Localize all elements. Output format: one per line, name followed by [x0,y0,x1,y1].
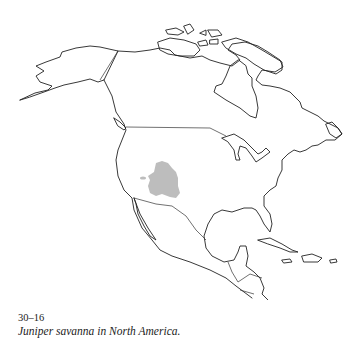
hispaniola-outline [302,254,322,262]
arctic-island-2 [166,28,184,35]
cuba-outline [258,238,298,252]
alaska-canada-border [100,51,118,80]
figure-title: Juniper savanna in North America. [18,324,180,338]
jamaica-outline [282,259,292,263]
figure-number: 30–16 [18,311,180,324]
north-america-map [0,0,360,300]
great-lakes-outline [222,134,270,162]
juniper-savanna-outlier [140,176,146,179]
arctic-island-7 [210,39,218,44]
newfoundland-outline [326,122,342,138]
figure-caption: 30–16 Juniper savanna in North America. [18,311,180,338]
us-canada-border [126,127,226,136]
mainland-outline [118,42,342,300]
central-america-borders [228,262,262,294]
arctic-island-5 [208,30,222,37]
arctic-island-4 [200,30,206,35]
hudson-bay-outline [214,60,258,118]
baja-california-outline [134,198,156,240]
juniper-savanna-range [148,161,180,198]
puerto-rico-outline [330,259,337,263]
us-mexico-border [134,198,206,240]
alaska-outline [20,46,118,100]
arctic-island-6 [198,40,208,46]
arctic-island-1 [158,38,200,56]
arctic-island-3 [184,24,194,34]
baffin-island-outline [222,38,282,74]
